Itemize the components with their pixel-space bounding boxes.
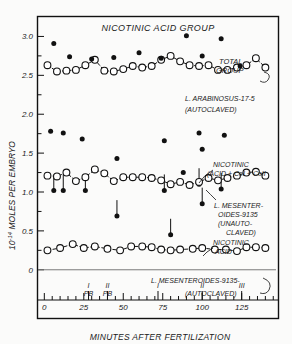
data-point-open xyxy=(196,63,203,70)
svg-text:OIDES-9135: OIDES-9135 xyxy=(218,211,258,218)
data-point-open xyxy=(57,245,64,252)
svg-text:TOTAL: TOTAL xyxy=(219,57,242,66)
data-point-open xyxy=(199,245,206,252)
data-point-filled xyxy=(80,137,85,142)
data-point-filled xyxy=(200,147,205,152)
svg-text:(UNAUTO-: (UNAUTO- xyxy=(218,220,253,228)
svg-text:ACID: ACID xyxy=(214,248,232,255)
data-point-filled xyxy=(51,41,56,46)
y-tick-label: 0 xyxy=(29,266,34,275)
data-point-filled xyxy=(222,133,227,138)
data-point-open xyxy=(129,63,136,70)
data-point-open xyxy=(177,58,184,65)
data-point-open xyxy=(120,174,127,181)
svg-text:L. MESENTER-: L. MESENTER- xyxy=(214,202,264,209)
svg-text:CLAVED): CLAVED) xyxy=(226,229,256,237)
data-point-filled xyxy=(48,129,53,134)
data-point-open xyxy=(189,245,196,252)
data-point-open xyxy=(82,174,89,181)
data-point-open xyxy=(104,245,111,252)
x-tick-label: 25 xyxy=(78,303,88,312)
annotation-arabinosus: L. ARABINOSUS-17-5 (AUTOCLAVED) xyxy=(185,95,255,114)
data-point-open xyxy=(72,66,79,73)
data-point-open xyxy=(243,62,250,69)
data-point-open xyxy=(139,64,146,71)
x-tick-label: 0 xyxy=(42,303,47,312)
data-point-filled xyxy=(61,130,66,135)
data-point-open xyxy=(139,174,146,181)
data-point-open xyxy=(215,177,222,184)
drop-marker-dot xyxy=(51,188,56,193)
figure-root: 00.51.01.52.02.53.0 0255075100125 IPBIIP… xyxy=(0,0,292,344)
drop-marker-dot xyxy=(61,188,66,193)
y-tick-label: 1.0 xyxy=(22,188,34,197)
svg-text:GROUP: GROUP xyxy=(216,66,244,75)
data-point-open xyxy=(128,243,135,250)
data-point-open xyxy=(262,64,269,71)
data-point-open xyxy=(117,247,124,254)
x-tick-label: 125 xyxy=(235,303,249,312)
x-tick-label: 100 xyxy=(196,303,210,312)
data-point-filled xyxy=(159,56,164,61)
y-axis-ticks: 00.51.01.52.02.53.0 xyxy=(21,32,44,274)
svg-text:NICOTINIC: NICOTINIC xyxy=(213,161,250,168)
svg-text:(AUTOCLAVED): (AUTOCLAVED) xyxy=(185,106,237,114)
drop-marker-dot xyxy=(162,188,167,193)
drop-marker-dot xyxy=(168,232,173,237)
data-point-open xyxy=(252,244,259,251)
data-point-open xyxy=(234,248,241,255)
x-tick-label: 50 xyxy=(119,303,128,312)
data-point-filled xyxy=(181,170,186,175)
data-point-open xyxy=(186,182,193,189)
svg-text:L. MESENTEROIDES-9135-: L. MESENTEROIDES-9135- xyxy=(151,277,240,284)
data-point-open xyxy=(167,247,174,254)
data-point-open xyxy=(262,245,269,252)
svg-text:(AUTOCLAVED): (AUTOCLAVED) xyxy=(185,290,237,298)
data-point-filled xyxy=(89,57,94,62)
drop-marker-dot xyxy=(83,188,88,193)
annotation-leader xyxy=(206,190,216,200)
nicotinic-acid-group-chart: 00.51.01.52.02.53.0 0255075100125 IPBIIP… xyxy=(0,0,292,344)
y-axis-title: 10-14 MOLES PER EMBRYO xyxy=(7,141,17,250)
annotation-leader xyxy=(260,278,270,294)
data-point-open xyxy=(120,66,127,73)
data-point-open xyxy=(44,62,51,69)
annotation-nicotinic-co: NICOTINIC (ACID + CoI + CoII xyxy=(207,161,266,178)
svg-text:(ACID + CoI + CoII: (ACID + CoI + CoII xyxy=(207,170,266,178)
data-point-open xyxy=(148,175,155,182)
data-point-open xyxy=(63,169,70,176)
y-tick-label: 2.0 xyxy=(21,110,34,119)
data-point-filled xyxy=(184,33,189,38)
y-tick-label: 1.5 xyxy=(22,149,34,158)
data-point-open xyxy=(177,246,184,253)
x-axis-title: MINUTES AFTER FERTILIZATION xyxy=(90,332,231,342)
data-point-open xyxy=(158,246,165,253)
data-point-filled xyxy=(162,138,167,143)
data-point-open xyxy=(110,178,117,185)
data-point-open xyxy=(101,170,108,177)
data-point-open xyxy=(82,62,89,69)
y-tick-label: 2.5 xyxy=(21,71,34,80)
event-marker-label: II xyxy=(106,282,110,289)
data-point-open xyxy=(110,68,117,75)
svg-text:L. ARABINOSUS-17-5: L. ARABINOSUS-17-5 xyxy=(185,95,255,102)
svg-text:10-14 MOLES PER EMBRYO: 10-14 MOLES PER EMBRYO xyxy=(7,141,17,250)
data-point-open xyxy=(54,68,61,75)
event-marker-label: I xyxy=(88,282,90,289)
data-point-open xyxy=(63,67,70,74)
data-point-open xyxy=(69,241,76,248)
data-point-filled xyxy=(111,55,116,60)
annotation-mesenteroides-autoclaved: L. MESENTEROIDES-9135- (AUTOCLAVED) xyxy=(151,277,240,298)
data-point-open xyxy=(80,245,87,252)
data-point-open xyxy=(54,173,61,180)
drop-marker-dot xyxy=(200,201,205,206)
annotation-total-group: TOTAL GROUP xyxy=(216,57,244,75)
data-point-filled xyxy=(137,50,142,55)
data-point-open xyxy=(252,55,259,62)
data-point-open xyxy=(91,166,98,173)
data-point-open xyxy=(158,177,165,184)
data-point-open xyxy=(91,243,98,250)
data-point-open xyxy=(205,62,212,69)
svg-text:NICOTINIC: NICOTINIC xyxy=(213,239,250,246)
drop-marker-dot xyxy=(219,186,224,191)
